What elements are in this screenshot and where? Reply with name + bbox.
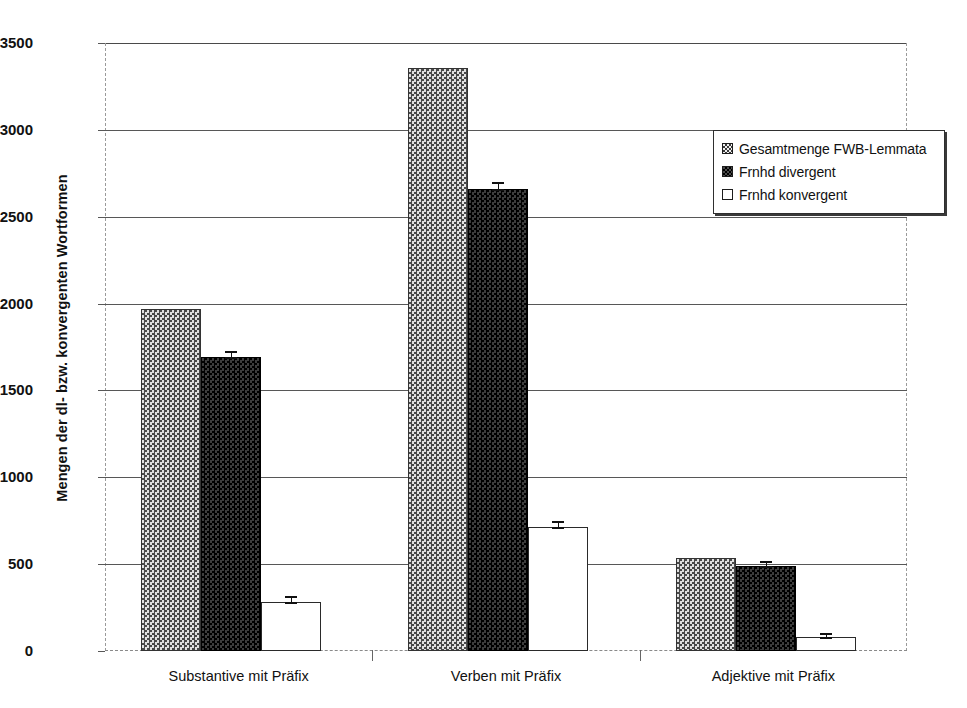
- y-axis-tick-mark: [98, 651, 105, 652]
- error-bar-cap-bottom: [820, 637, 832, 639]
- error-bar-cap-bottom: [492, 189, 504, 191]
- error-bar-cap-top: [492, 182, 504, 184]
- error-bar-cap-top: [552, 521, 564, 523]
- plot-border-top: [105, 43, 907, 44]
- checkered-light-swatch: [722, 143, 733, 154]
- bar[interactable]: [736, 566, 796, 651]
- y-axis-tick-label: 3500: [0, 34, 33, 51]
- bar[interactable]: [261, 602, 321, 651]
- error-bar-cap-bottom: [225, 357, 237, 359]
- x-axis-category-label: Verben mit Präfix: [372, 668, 639, 684]
- bar[interactable]: [141, 309, 201, 651]
- bar[interactable]: [408, 68, 468, 651]
- error-bar-cap-bottom: [285, 602, 297, 604]
- x-axis-tick-mark: [640, 650, 641, 661]
- x-axis-tick-mark: [372, 650, 373, 661]
- y-axis-tick-label: 500: [0, 555, 33, 572]
- y-axis-tick-label: 1500: [0, 381, 33, 398]
- y-axis-line: [105, 43, 106, 651]
- white-outline-swatch: [722, 189, 733, 200]
- bar[interactable]: [201, 357, 261, 651]
- y-axis-title: Mengen der dl- bzw. konvergenten Wortfor…: [54, 128, 70, 548]
- bar[interactable]: [796, 637, 856, 651]
- bar[interactable]: [468, 189, 528, 651]
- legend-item-frnhd-divergent[interactable]: Frnhd divergent: [722, 161, 936, 182]
- y-axis-tick-label: 3000: [0, 121, 33, 138]
- y-axis-tick-mark: [98, 43, 105, 44]
- y-axis-tick-mark: [98, 304, 105, 305]
- y-axis-tick-label: 0: [0, 642, 33, 659]
- y-axis-tick-label: 2000: [0, 295, 33, 312]
- error-bar-cap-top: [285, 596, 297, 598]
- chart-legend: Gesamtmenge FWB-Lemmata Frnhd divergent …: [713, 130, 945, 214]
- y-axis-tick-mark: [98, 217, 105, 218]
- y-axis-tick-mark: [98, 390, 105, 391]
- error-bar-cap-top: [225, 351, 237, 353]
- y-axis-tick-label: 2500: [0, 208, 33, 225]
- legend-item-frnhd-konvergent[interactable]: Frnhd konvergent: [722, 184, 936, 205]
- bar-chart: Mengen der dl- bzw. konvergenten Wortfor…: [0, 0, 967, 708]
- error-bar-cap-bottom: [760, 566, 772, 568]
- legend-label: Frnhd konvergent: [739, 187, 847, 203]
- legend-item-gesamtmenge-fwb-lemmata[interactable]: Gesamtmenge FWB-Lemmata: [722, 138, 936, 159]
- error-bar-cap-top: [760, 561, 772, 563]
- y-axis-tick-label: 1000: [0, 468, 33, 485]
- y-axis-tick-mark: [98, 130, 105, 131]
- error-bar-cap-top: [820, 633, 832, 635]
- checkered-dark-swatch: [722, 166, 733, 177]
- bar[interactable]: [676, 558, 736, 651]
- legend-label: Frnhd divergent: [739, 164, 836, 180]
- x-axis-category-label: Adjektive mit Präfix: [640, 668, 907, 684]
- error-bar-cap-bottom: [552, 527, 564, 529]
- x-axis-category-label: Substantive mit Präfix: [105, 668, 372, 684]
- y-axis-tick-mark: [98, 564, 105, 565]
- y-axis-tick-mark: [98, 477, 105, 478]
- bar[interactable]: [528, 527, 588, 651]
- legend-label: Gesamtmenge FWB-Lemmata: [739, 141, 927, 157]
